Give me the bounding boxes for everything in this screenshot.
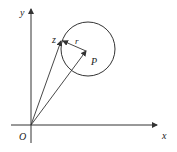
y-axis-label: y (19, 7, 25, 18)
diagram-canvas: y x O z r P (0, 0, 177, 152)
origin-label: O (19, 131, 26, 142)
vector-o-to-z (31, 41, 61, 125)
z-label: z (51, 34, 56, 45)
vector-o-to-p (31, 51, 86, 125)
center-label: P (90, 56, 97, 67)
radius-label: r (75, 36, 79, 46)
x-axis-label: x (161, 130, 167, 141)
circle (61, 22, 115, 76)
complex-plane-diagram: y x O z r P (0, 0, 177, 152)
